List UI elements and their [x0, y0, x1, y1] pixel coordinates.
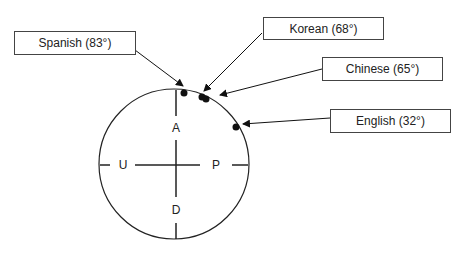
label-chinese: Chinese (65°): [322, 57, 443, 81]
axis-label-p: P: [210, 158, 222, 172]
axis-label-d: D: [170, 203, 183, 217]
arrow-spanish: [135, 50, 183, 86]
label-korean: Korean (68°): [263, 17, 384, 40]
arrow-korean: [204, 33, 262, 91]
point-chinese: [203, 96, 210, 103]
arrow-chinese: [220, 69, 322, 95]
point-spanish: [181, 90, 188, 97]
label-english: English (32°): [330, 109, 451, 133]
arrow-english: [243, 118, 330, 124]
point-english: [233, 124, 240, 131]
label-spanish: Spanish (83°): [14, 31, 136, 55]
axis-label-a: A: [170, 121, 182, 135]
axis-label-u: U: [117, 158, 130, 172]
